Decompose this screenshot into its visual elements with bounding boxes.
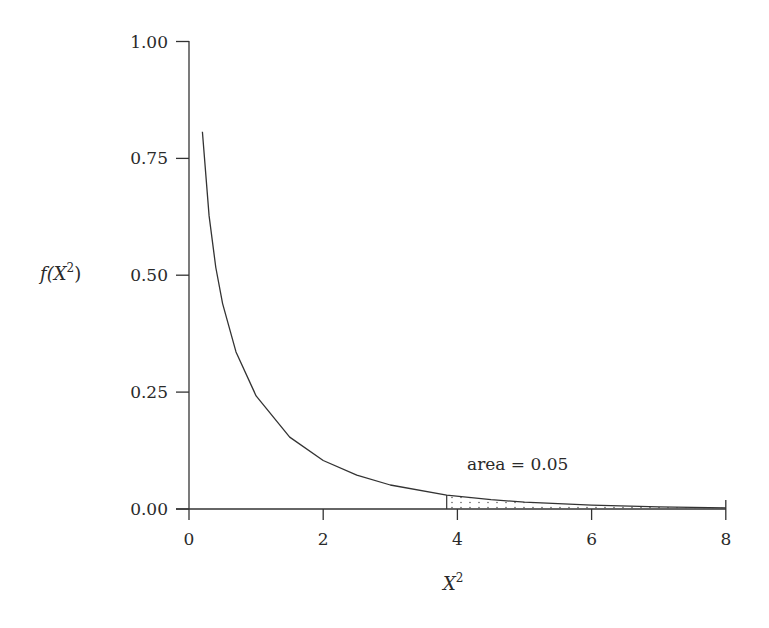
y-tick-label-0.25: 0.25	[130, 382, 168, 402]
chart: 1.00 0.75 0.50 0.25 0.00 0 2 4 6 8 f(X2)…	[0, 0, 769, 628]
x-tick-label-6: 6	[586, 529, 597, 549]
y-ticks	[176, 42, 189, 510]
x-tick-label-0: 0	[184, 529, 195, 549]
y-tick-label-0.50: 0.50	[130, 265, 168, 285]
area-annotation: area = 0.05	[467, 454, 568, 474]
y-tick-label-0.75: 0.75	[130, 148, 168, 168]
x-tick-label-8: 8	[720, 529, 731, 549]
density-curve	[202, 132, 725, 508]
y-tick-label-1.00: 1.00	[130, 32, 168, 52]
x-tick-label-2: 2	[318, 529, 329, 549]
y-axis-title: f(X2)	[38, 261, 81, 284]
x-axis-title: X2	[441, 571, 463, 594]
x-tick-label-4: 4	[452, 529, 463, 549]
y-tick-label-0.00: 0.00	[130, 499, 168, 519]
